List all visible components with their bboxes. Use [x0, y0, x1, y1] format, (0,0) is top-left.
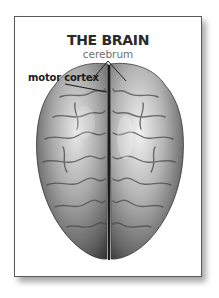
motor-cortex-label: motor cortex	[28, 72, 99, 83]
diagram-title: THE BRAIN	[15, 32, 201, 48]
diagram-card: THE BRAIN cerebrum motor cortex	[14, 16, 202, 277]
cerebrum-label: cerebrum	[15, 48, 201, 60]
